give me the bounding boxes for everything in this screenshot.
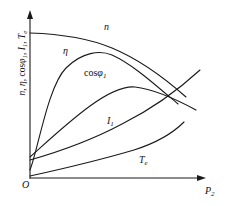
curve-cosphi1 bbox=[30, 87, 196, 157]
x-axis-arrow bbox=[197, 175, 206, 181]
curve-I1 bbox=[30, 70, 200, 160]
figure-canvas: n, η, cosφ1, I1, Te P2 O n η cosφ1 I1 Te bbox=[0, 0, 233, 206]
curve-Te bbox=[30, 122, 184, 176]
characteristic-curves-plot bbox=[0, 0, 233, 206]
curve-eta bbox=[30, 53, 178, 170]
y-axis-arrow bbox=[27, 10, 33, 19]
curve-n bbox=[30, 33, 186, 97]
y-axis-label: n, η, cosφ1, I1, Te bbox=[17, 3, 27, 123]
